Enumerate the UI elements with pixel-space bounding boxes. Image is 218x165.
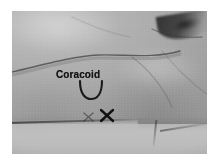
figure-root: Coracoid [0, 0, 218, 165]
clinical-photograph: Coracoid [12, 11, 207, 154]
photo-vignette [12, 11, 207, 154]
